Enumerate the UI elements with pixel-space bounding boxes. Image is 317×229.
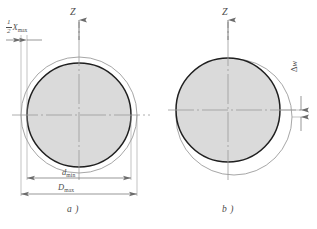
x-variable-subscript: max: [18, 27, 28, 33]
x-variable-symbol: X: [13, 22, 18, 32]
panel-b-caption: b ): [222, 204, 234, 214]
panel-b: [168, 20, 308, 180]
panel-b-eccentricity-label: Δw: [289, 61, 299, 72]
delta-symbol: Δ: [289, 67, 299, 72]
figure-canvas: [0, 0, 317, 229]
fraction-denominator: 2: [6, 28, 12, 35]
half-fraction: 1 2: [6, 19, 12, 35]
fraction-numerator: 1: [6, 19, 12, 26]
w-variable-symbol: w: [289, 61, 299, 67]
panel-a: [6, 20, 150, 196]
panel-a-hole-max-diameter-label: Dmax: [58, 182, 74, 192]
panel-a-caption: a ): [67, 204, 79, 214]
panel-a-half-max-clearance-label: 1 2 Xmax: [6, 19, 27, 35]
d-variable-subscript: min: [66, 172, 75, 178]
panel-a-z-axis-label: Z: [70, 6, 76, 17]
D-variable-subscript: max: [64, 187, 74, 193]
tolerance-figure: Z Z 1 2 Xmax dmin Dmax Δw a ) b ): [0, 0, 317, 229]
panel-b-z-axis-label: Z: [222, 6, 228, 17]
x-variable: Xmax: [13, 22, 28, 32]
panel-a-shaft-min-diameter-label: dmin: [62, 167, 76, 177]
